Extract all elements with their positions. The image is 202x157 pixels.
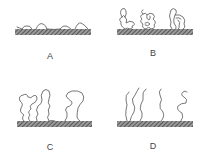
substrate-d: [117, 121, 193, 127]
panel-a: A: [15, 23, 91, 61]
substrate-c: [17, 121, 92, 127]
chains-d: [126, 88, 187, 121]
panel-d: D: [117, 88, 193, 151]
panel-label-c: C: [47, 142, 54, 152]
substrate-b: [117, 29, 193, 35]
chains-b: [120, 8, 185, 29]
panel-label-b: B: [150, 48, 156, 58]
panel-b: B: [117, 8, 193, 58]
panel-label-d: D: [150, 141, 157, 151]
chains-c: [19, 90, 83, 122]
panel-c: C: [17, 90, 92, 153]
panel-label-a: A: [47, 51, 53, 61]
chains-a: [17, 23, 88, 30]
polymer-conformation-diagram: A B C: [0, 0, 202, 157]
